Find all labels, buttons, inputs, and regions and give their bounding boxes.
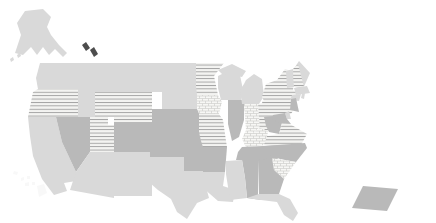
region-SD: [162, 86, 197, 109]
region-WA: [36, 63, 78, 89]
states-layer: [10, 9, 398, 221]
region-HI: [27, 176, 30, 179]
region-ID: [78, 63, 95, 117]
region-HI: [13, 171, 18, 175]
region-AR: [203, 147, 227, 172]
region-HI: [37, 184, 47, 197]
region-IL: [228, 100, 244, 141]
region-IN: [244, 104, 260, 133]
region-OR: [28, 89, 78, 117]
region-UT: [90, 117, 114, 152]
region-small-islands: [90, 47, 98, 57]
region-AK: [15, 9, 67, 57]
region-VT: [286, 69, 294, 88]
region-MO: [199, 114, 227, 147]
us-choropleth-map: [0, 0, 436, 223]
cropped-title-fragment: [70, 0, 366, 3]
region-MI: [240, 74, 264, 104]
region-HI: [21, 177, 24, 181]
region-HI: [25, 182, 29, 186]
region-IA: [197, 95, 222, 114]
region-PR: [352, 186, 398, 211]
region-NM: [114, 152, 152, 196]
region-MT: [95, 63, 162, 92]
region-HI: [32, 182, 35, 185]
figure: % of Growth of ELL Population since 1994…: [0, 0, 436, 223]
region-FL: [247, 194, 298, 221]
region-AK: [10, 57, 14, 62]
region-CO: [114, 122, 155, 152]
region-NE: [152, 109, 206, 129]
region-small-islands: [82, 42, 90, 51]
region-ND: [162, 63, 197, 86]
